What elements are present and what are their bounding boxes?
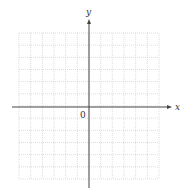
origin-label: 0: [80, 110, 86, 120]
x-axis-label: x: [175, 102, 180, 112]
coordinate-plane: x y 0: [0, 0, 189, 196]
y-axis-label: y: [85, 7, 92, 17]
axes: [12, 19, 172, 188]
y-axis-arrow-icon: [87, 19, 91, 24]
x-axis-arrow-icon: [167, 105, 172, 109]
